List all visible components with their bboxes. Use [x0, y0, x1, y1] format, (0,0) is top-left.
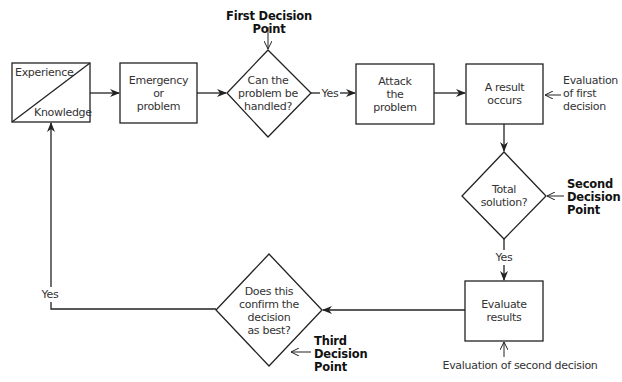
decision3-yes-label: Yes [38, 288, 62, 301]
evaluation-second-label: Evaluation of second decision [430, 359, 610, 372]
decision3-label: Does this confirm the decision as best? [229, 284, 309, 338]
evaluate-label: Evaluate results [465, 281, 543, 341]
attack-label: Attack the problem [356, 64, 434, 124]
first-decision-point-label: First Decision Point [208, 10, 330, 36]
edge-decision3-yes-loop [51, 302, 216, 309]
emergency-label: Emergency or problem [120, 63, 197, 123]
decision2-label: Total solution? [470, 180, 538, 212]
knowledge-label: Knowledge [34, 106, 90, 119]
evaluation-first-label: Evaluation of first decision [563, 74, 622, 113]
decision1-label: Can the problem be handled? [234, 70, 302, 116]
third-decision-point-label: Third Decision Point [314, 335, 370, 374]
result-label: A result occurs [466, 64, 543, 124]
decision2-yes-label: Yes [492, 251, 516, 264]
decision1-yes-label: Yes [318, 87, 342, 100]
second-decision-point-label: Second Decision Point [567, 178, 622, 217]
experience-label: Experience [15, 66, 85, 79]
